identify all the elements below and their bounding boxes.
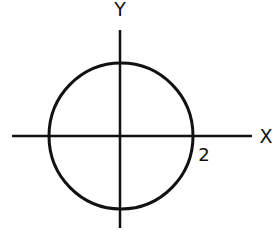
y-axis-label: Y xyxy=(113,0,126,20)
x-axis-label: X xyxy=(259,125,272,147)
radius-label: 2 xyxy=(198,144,209,165)
circle-diagram: Y X 2 xyxy=(0,0,277,236)
